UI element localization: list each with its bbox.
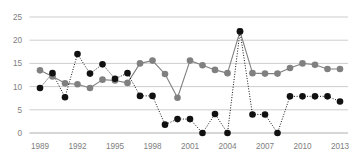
y-axis-tick-label: 10: [13, 83, 23, 92]
data-point-black-series: [324, 93, 331, 100]
data-point-black-series: [287, 93, 294, 100]
data-point-gray-series: [324, 66, 331, 73]
data-point-black-series: [137, 93, 144, 100]
gridlines-group: [30, 17, 349, 133]
data-point-gray-series: [312, 61, 319, 68]
data-point-gray-series: [37, 67, 44, 74]
data-point-black-series: [299, 93, 306, 100]
x-axis-tick-label: 1998: [143, 142, 162, 151]
data-point-gray-series: [187, 57, 194, 64]
data-point-black-series: [199, 130, 206, 137]
data-point-gray-series: [249, 70, 256, 77]
series-line-gray-series: [40, 31, 340, 97]
x-axis-tick-label: 2004: [218, 142, 237, 151]
data-point-gray-series: [62, 80, 69, 87]
data-point-black-series: [37, 85, 44, 92]
data-point-black-series: [187, 116, 194, 123]
data-point-black-series: [87, 70, 94, 77]
x-axis-tick-label: 2007: [256, 142, 275, 151]
data-point-black-series: [124, 70, 131, 77]
x-axis-tick-label: 1992: [68, 142, 87, 151]
data-point-gray-series: [212, 67, 219, 74]
data-point-gray-series: [149, 57, 156, 64]
data-point-gray-series: [87, 85, 94, 92]
x-axis-tick-label: 1995: [106, 142, 125, 151]
data-point-gray-series: [124, 80, 131, 87]
data-point-gray-series: [74, 81, 81, 88]
data-point-gray-series: [137, 60, 144, 67]
line-chart: 0510152025 19891992199519982001200420072…: [0, 0, 352, 163]
data-point-black-series: [312, 93, 319, 100]
chart-container: 0510152025 19891992199519982001200420072…: [0, 0, 352, 163]
x-axis-tick-label: 1989: [31, 142, 50, 151]
data-point-black-series: [337, 98, 344, 105]
y-axis-tick-label: 20: [13, 36, 23, 45]
y-axis-tick-label: 5: [17, 106, 22, 115]
data-point-gray-series: [174, 94, 181, 101]
x-axis-tick-labels: 198919921995199820012004200720102013: [31, 142, 350, 151]
data-point-gray-series: [262, 70, 269, 77]
data-point-gray-series: [162, 71, 169, 78]
y-axis-tick-label: 0: [17, 129, 22, 138]
data-point-black-series: [174, 116, 181, 123]
data-point-black-series: [74, 51, 81, 58]
data-point-gray-series: [287, 65, 294, 72]
y-axis-tick-label: 25: [13, 13, 23, 22]
data-point-black-series: [262, 111, 269, 118]
data-point-gray-series: [99, 76, 106, 83]
series-markers-group: [37, 28, 344, 136]
data-point-gray-series: [299, 60, 306, 67]
x-axis-tick-label: 2001: [181, 142, 200, 151]
data-point-black-series: [149, 93, 156, 100]
data-point-black-series: [49, 70, 56, 77]
x-axis-tick-label: 2010: [293, 142, 312, 151]
x-axis-tick-label: 2013: [331, 142, 350, 151]
data-point-black-series: [62, 94, 69, 101]
data-point-black-series: [274, 130, 281, 137]
data-point-black-series: [99, 61, 106, 68]
data-point-black-series: [237, 28, 244, 35]
data-point-gray-series: [274, 70, 281, 77]
data-point-black-series: [112, 75, 119, 82]
data-point-gray-series: [199, 62, 206, 69]
data-point-black-series: [249, 111, 256, 118]
data-point-black-series: [162, 121, 169, 128]
y-axis-tick-label: 15: [13, 59, 23, 68]
data-point-gray-series: [337, 66, 344, 73]
data-point-gray-series: [224, 70, 231, 77]
data-point-black-series: [212, 111, 219, 118]
y-axis-tick-labels: 0510152025: [13, 13, 23, 138]
data-point-black-series: [224, 130, 231, 137]
